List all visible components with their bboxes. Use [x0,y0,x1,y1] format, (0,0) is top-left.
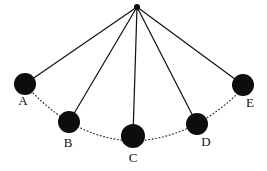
bob-a [14,73,36,95]
bob-label-e: E [246,95,254,110]
bob-b [58,111,80,133]
pivot-point [134,4,140,10]
bob-label-c: C [129,150,138,165]
bob-e [232,74,254,96]
bob-label-a: A [18,93,28,108]
bob-label-b: B [64,135,73,150]
pendulum-diagram: A B C D E [0,0,267,171]
bob-c [121,124,145,148]
bob-label-d: D [201,134,210,149]
bob-d [186,113,208,135]
diagram-canvas: A B C D E [0,0,267,171]
